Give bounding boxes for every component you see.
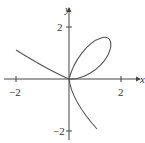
curve-loop — [69, 37, 111, 79]
y-axis-label: y — [64, 3, 70, 15]
plot: x y −2 2 2 −2 — [0, 0, 145, 143]
y-tick-label-pos2: 2 — [57, 21, 63, 33]
x-tick-label-pos2: 2 — [118, 86, 124, 98]
curve-lower-branch — [69, 79, 97, 129]
x-tick-label-neg2: −2 — [9, 86, 21, 98]
curve-left-branch — [16, 50, 69, 79]
y-tick-label-neg2: −2 — [53, 125, 65, 137]
x-axis-label: x — [139, 73, 145, 85]
